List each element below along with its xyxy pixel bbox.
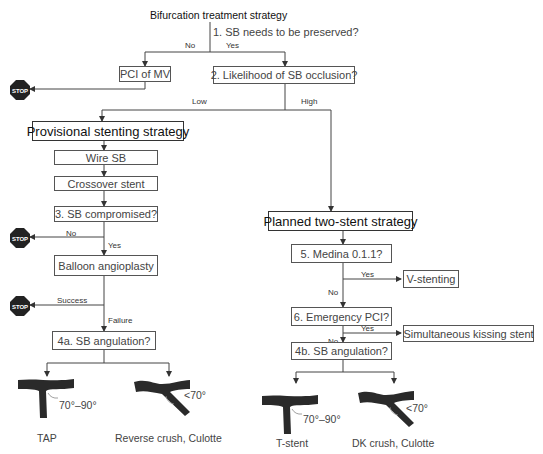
svg-text:STOP: STOP xyxy=(12,304,28,310)
label-q1-no: No xyxy=(185,41,195,50)
box-question-6: 6. Emergency PCI? xyxy=(291,307,392,326)
label-success: Success xyxy=(57,296,87,305)
caption-reverse-crush-culotte: Reverse crush, Culotte xyxy=(115,432,222,444)
caption-dk-crush-culotte: DK crush, Culotte xyxy=(352,437,434,449)
angle-label: <70° xyxy=(184,389,206,401)
box-question-5: 5. Medina 0.1.1? xyxy=(291,244,392,263)
diagram-title: Bifurcation treatment strategy xyxy=(150,9,287,21)
label-q5-yes: Yes xyxy=(361,270,374,279)
stop-sign-icon: STOP xyxy=(10,80,30,100)
box-question-4a: 4a. SB angulation? xyxy=(52,331,156,350)
box-wire-sb: Wire SB xyxy=(54,150,158,165)
box-v-stenting: V-stenting xyxy=(403,270,459,288)
box-question-4b: 4b. SB angulation? xyxy=(291,342,392,360)
box-question-3: 3. SB compromised? xyxy=(54,206,158,222)
stop-sign-icon: STOP xyxy=(10,296,30,316)
svg-text:STOP: STOP xyxy=(12,88,28,94)
box-crossover-stent: Crossover stent xyxy=(54,176,158,191)
box-balloon-angioplasty: Balloon angioplasty xyxy=(54,255,158,276)
caption-tap: TAP xyxy=(37,432,57,444)
box-pci-of-mv: PCI of MV xyxy=(119,66,171,82)
svg-text:STOP: STOP xyxy=(12,236,28,242)
box-planned-two-stent: Planned two-stent strategy xyxy=(268,211,413,231)
label-q3-no: No xyxy=(66,229,76,238)
box-question-2: 2. Likelihood of SB occlusion? xyxy=(213,66,355,84)
question-1: 1. SB needs to be preserved? xyxy=(213,26,359,38)
caption-t-stent: T-stent xyxy=(276,437,308,449)
angle-label: 70°–90° xyxy=(59,399,97,411)
stop-sign-icon: STOP xyxy=(10,228,30,248)
angle-label: <70° xyxy=(406,402,428,414)
label-q3-yes: Yes xyxy=(108,241,121,250)
label-low: Low xyxy=(192,97,207,106)
box-simultaneous-kissing-stent: Simultaneous kissing stent xyxy=(403,325,534,342)
label-q5-no: No xyxy=(328,288,338,297)
label-high: High xyxy=(301,97,317,106)
angle-label: 70°–90° xyxy=(303,413,341,425)
label-q1-yes: Yes xyxy=(226,41,239,50)
label-q6-yes: Yes xyxy=(361,324,374,333)
box-provisional-stenting: Provisional stenting strategy xyxy=(32,121,184,141)
label-failure: Failure xyxy=(108,316,132,325)
